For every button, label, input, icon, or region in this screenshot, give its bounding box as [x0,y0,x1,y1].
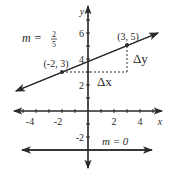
y-tick-label: 6 [79,28,84,39]
y-axis-label: y [79,6,85,17]
point-a-label: (-2, 3) [44,58,69,70]
y-tick-label: -2 [76,132,84,143]
slope-prefix: m = [22,31,42,45]
x-axis-label: x [157,116,163,127]
x-tick-label: -4 [26,116,34,127]
x-tick-label: -2 [54,116,62,127]
x-tick-label: 4 [138,116,143,127]
zero-slope-label: m = 0 [102,135,129,147]
delta-x-label: Δx [97,74,112,89]
slope-graph: -4 -2 2 4 x 6 4 2 -2 y (-2, 3) (3, 5) Δx… [0,0,176,178]
delta-y-label: Δy [133,51,148,66]
slope-label: m = 2 5 [22,30,57,49]
slope-denominator: 5 [52,40,56,49]
y-axis [86,6,90,168]
y-tick-label: 2 [79,80,84,91]
point-b-label: (3, 5) [117,31,139,43]
x-tick-label: 2 [112,116,117,127]
slope-numerator: 2 [52,30,56,39]
